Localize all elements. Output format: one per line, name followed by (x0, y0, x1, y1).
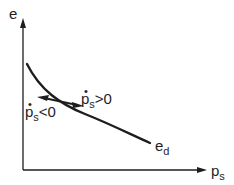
x-axis (23, 167, 207, 173)
label-ps-dot-positive: p•s>0 (81, 91, 112, 106)
label-ps-dot-negative: p•s<0 (25, 104, 56, 119)
y-axis-label: e (9, 6, 17, 21)
dot-icon: • (28, 99, 32, 110)
x-axis-label: ps (211, 163, 225, 178)
x-axis-arrowhead-icon (197, 167, 207, 173)
dot-icon: • (84, 86, 88, 97)
diagram-canvas (0, 0, 234, 185)
arrow-left-icon (37, 95, 49, 101)
y-axis-arrowhead-icon (20, 18, 26, 28)
curve-label-ed: ed (155, 138, 169, 153)
y-axis (20, 18, 26, 170)
